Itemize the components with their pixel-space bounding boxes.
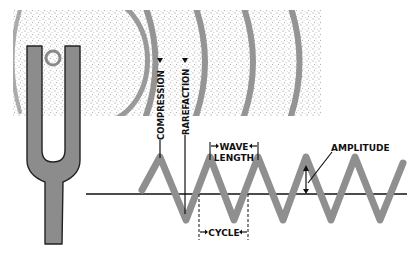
sound-wave-diagram: COMPRESSION RAREFACTION WAVE LENGTH CYCL… — [0, 0, 420, 258]
wavelength-label-line1: WAVE — [220, 142, 249, 152]
compression-label-group: COMPRESSION — [156, 58, 166, 158]
amplitude-label: AMPLITUDE — [331, 143, 390, 153]
sound-field — [13, 0, 322, 122]
sine-wave — [142, 157, 403, 220]
compression-label: COMPRESSION — [156, 70, 166, 140]
rarefaction-label-group: RAREFACTION — [181, 58, 191, 214]
rarefaction-label: RAREFACTION — [181, 69, 191, 135]
cycle-label: CYCLE — [208, 228, 239, 238]
wavelength-label-line2: LENGTH — [214, 153, 254, 163]
wavelength-annotation: WAVE LENGTH — [210, 142, 258, 163]
